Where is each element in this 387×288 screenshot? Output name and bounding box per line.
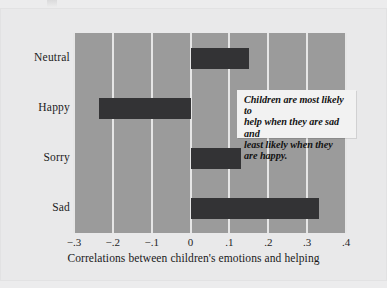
bar-sad (191, 198, 319, 219)
annotation-callout: Children are most likely to help when th… (237, 90, 356, 138)
scan-artifact-mark (47, 0, 57, 7)
x-axis-tick-labels: −.3−.2−.10.1.2.3.4 (74, 236, 346, 252)
y-axis-labels: NeutralHappySorrySad (0, 33, 70, 233)
x-tick-label-1: −.2 (93, 236, 133, 248)
annotation-line-4: are happy. (244, 150, 352, 161)
y-axis-label-neutral: Neutral (2, 51, 70, 64)
gridline-2 (151, 33, 153, 233)
bar-sorry (191, 148, 242, 169)
gridline-0 (73, 33, 75, 233)
bar-happy (99, 98, 190, 119)
annotation-line-2: help when they are sad and (244, 116, 352, 138)
y-axis-label-sad: Sad (2, 201, 70, 214)
bar-neutral (191, 48, 249, 69)
x-tick-label-6: .3 (287, 236, 327, 248)
annotation-line-3: least likely when they (244, 139, 352, 150)
y-axis-label-sorry: Sorry (2, 151, 70, 164)
x-tick-label-2: −.1 (132, 236, 172, 248)
y-axis-label-happy: Happy (2, 101, 70, 114)
x-tick-label-7: .4 (326, 236, 366, 248)
gridline-1 (112, 33, 114, 233)
x-tick-label-4: .1 (209, 236, 249, 248)
annotation-text: Children are most likely to help when th… (244, 94, 352, 161)
x-tick-label-5: .2 (248, 236, 288, 248)
x-tick-label-3: 0 (171, 236, 211, 248)
annotation-line-1: Children are most likely to (244, 94, 352, 116)
x-tick-label-0: −.3 (54, 236, 94, 248)
chart-figure: NeutralHappySorrySad −.3−.2−.10.1.2.3.4 … (0, 0, 387, 288)
x-axis-title: Correlations between children's emotions… (0, 252, 387, 264)
